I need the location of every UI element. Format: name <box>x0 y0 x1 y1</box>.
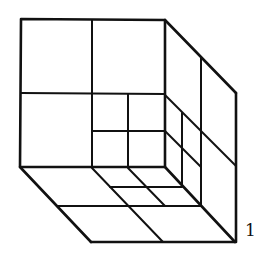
right-face <box>165 20 236 242</box>
floor-face <box>20 167 235 242</box>
cube-diagram <box>0 0 267 255</box>
figure-number-label: 1 <box>245 220 256 240</box>
back-face <box>20 19 165 167</box>
